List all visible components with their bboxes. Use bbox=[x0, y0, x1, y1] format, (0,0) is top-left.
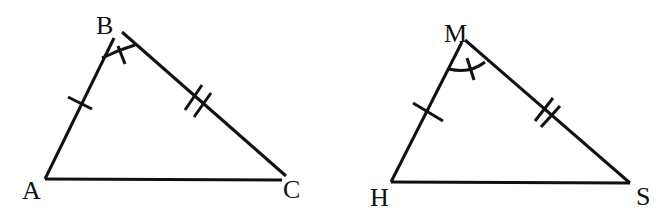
vertex-label-b: B bbox=[96, 11, 113, 40]
diagram-canvas: B A C M H S bbox=[0, 0, 667, 220]
angle-arc-m bbox=[449, 62, 485, 70]
vertex-label-c: C bbox=[283, 175, 300, 204]
side-ab bbox=[45, 38, 114, 179]
vertex-label-s: S bbox=[636, 182, 650, 211]
vertex-label-h: H bbox=[370, 183, 389, 212]
triangle-abc bbox=[45, 32, 286, 180]
side-hs bbox=[391, 182, 630, 183]
side-ac bbox=[45, 179, 282, 180]
vertex-label-a: A bbox=[22, 176, 41, 205]
triangles-svg: B A C M H S bbox=[0, 0, 667, 220]
triangle-hms bbox=[391, 40, 630, 183]
side-ms bbox=[465, 40, 630, 183]
tick-hm bbox=[413, 103, 443, 121]
vertex-label-m: M bbox=[444, 19, 467, 48]
